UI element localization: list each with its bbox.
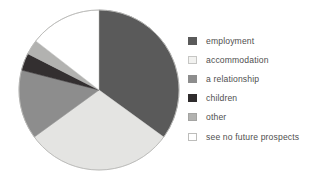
legend-swatch-icon-a-relationship [188, 75, 197, 83]
pie-chart-plot-area [0, 0, 186, 177]
chart-legend: employment accommodation a relationship … [188, 31, 332, 147]
legend-item-see-no-future-prospects[interactable]: see no future prospects [188, 127, 332, 146]
legend-swatch-icon-accommodation [188, 56, 197, 64]
legend-item-a-relationship[interactable]: a relationship [188, 69, 332, 88]
legend-swatch-icon-employment [188, 37, 197, 45]
pie-chart-svg [0, 0, 186, 177]
legend-label-see-no-future-prospects: see no future prospects [206, 132, 299, 142]
legend-item-other[interactable]: other [188, 108, 332, 127]
legend-label-other: other [206, 112, 226, 122]
legend-item-accommodation[interactable]: accommodation [188, 50, 332, 69]
legend-label-accommodation: accommodation [206, 55, 269, 65]
legend-swatch-icon-see-no-future-prospects [188, 133, 197, 141]
legend-label-employment: employment [206, 36, 254, 46]
legend-item-children[interactable]: children [188, 89, 332, 108]
legend-item-employment[interactable]: employment [188, 31, 332, 50]
legend-swatch-icon-other [188, 113, 197, 121]
legend-label-children: children [206, 93, 237, 103]
pie-chart-figure: employment accommodation a relationship … [0, 0, 332, 177]
legend-label-a-relationship: a relationship [206, 74, 259, 84]
pie-slice-group [19, 10, 179, 170]
legend-swatch-icon-children [188, 94, 197, 102]
